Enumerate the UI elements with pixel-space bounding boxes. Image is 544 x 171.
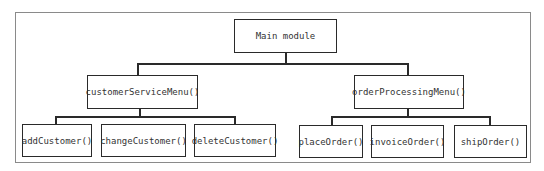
ship-order-label: shipOrder() [461,137,521,147]
customer-service-menu-label: customerServiceMenu() [86,87,200,97]
place-order-label: placeOrder() [298,137,363,147]
connector-to-customer-menu [137,63,139,75]
connector-to-add-customer [55,116,57,124]
connector-level1-bar [137,63,409,65]
place-order-box: placeOrder() [299,125,363,158]
order-processing-menu-label: orderProcessingMenu() [352,87,466,97]
connector-to-delete-customer [234,116,236,124]
order-processing-menu-box: orderProcessingMenu() [354,75,464,109]
add-customer-label: addCustomer() [22,136,92,146]
delete-customer-label: deleteCustomer() [192,136,279,146]
connector-to-place-order [331,116,333,125]
connector-customer-bar [55,116,235,118]
invoice-order-label: invoiceOrder() [370,137,446,147]
invoice-order-box: invoiceOrder() [371,125,444,158]
connector-to-ship-order [489,116,491,125]
connector-to-order-menu [407,63,409,75]
main-module-label: Main module [256,31,316,41]
add-customer-box: addCustomer() [22,124,92,157]
change-customer-label: changeCustomer() [100,136,187,146]
ship-order-box: shipOrder() [454,125,527,158]
main-module-box: Main module [234,19,337,53]
connector-order-bar [331,116,490,118]
change-customer-box: changeCustomer() [101,124,186,157]
delete-customer-box: deleteCustomer() [194,124,276,157]
customer-service-menu-box: customerServiceMenu() [87,75,198,109]
